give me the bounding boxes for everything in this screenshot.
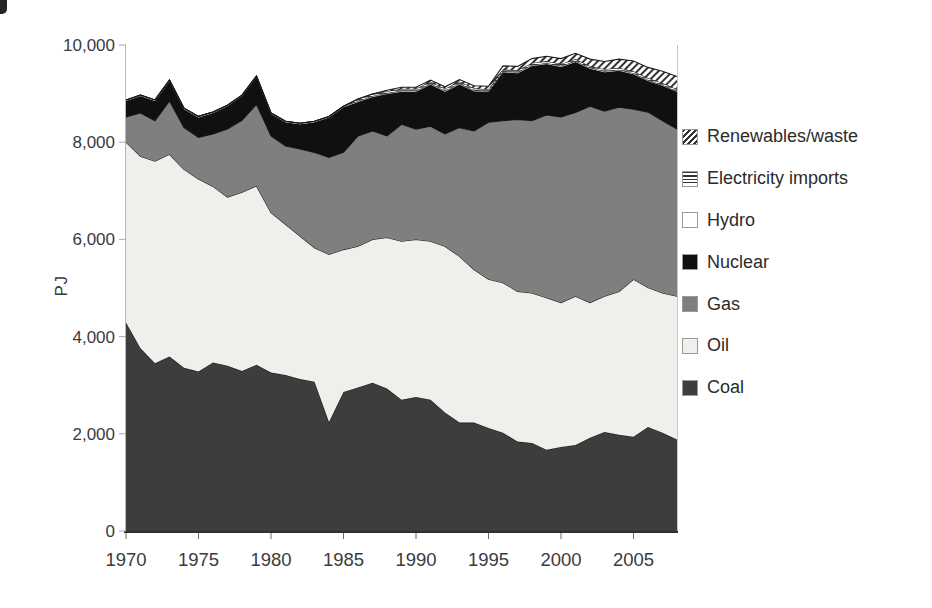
legend-item-electricity-imports: Electricity imports [682,158,858,200]
legend-label: Gas [698,294,740,315]
legend-label: Nuclear [698,252,769,273]
x-tick-label: 1980 [250,549,291,570]
legend-swatch-coal [682,380,698,396]
legend-item-renewables-waste: Renewables/waste [682,116,858,158]
scan-artifact [0,0,7,14]
legend-swatch-gas [682,296,698,312]
x-tick-label: 1995 [468,549,509,570]
y-tick-label: 0 [106,522,115,541]
legend-label: Hydro [698,210,755,231]
stacked-areas [126,53,677,531]
legend-label: Renewables/waste [698,126,858,147]
legend-label: Electricity imports [698,168,848,189]
legend-swatch-electricity-imports [682,171,698,187]
y-axis-title: PJ [52,260,72,312]
x-tick-label: 1985 [323,549,364,570]
legend-item-oil: Oil [682,325,858,367]
legend-item-hydro: Hydro [682,200,858,242]
legend-swatch-renewables-waste [682,129,698,145]
y-tick-label: 8,000 [72,133,115,152]
legend-item-gas: Gas [682,283,858,325]
legend-swatch-nuclear [682,254,698,270]
legend-label: Coal [698,377,744,398]
x-tick-label: 1990 [395,549,436,570]
x-tick-label: 2005 [613,549,654,570]
legend-swatch-hydro [682,212,698,228]
x-tick-label: 1975 [178,549,219,570]
x-tick-label: 1970 [105,549,146,570]
y-tick-label: 2,000 [72,425,115,444]
legend-swatch-oil [682,338,698,354]
legend: Renewables/wasteElectricity importsHydro… [682,116,858,409]
legend-label: Oil [698,335,729,356]
y-tick-label: 6,000 [72,230,115,249]
y-tick-label: 10,000 [63,36,115,55]
legend-item-nuclear: Nuclear [682,241,858,283]
x-tick-label: 2000 [540,549,581,570]
y-tick-label: 4,000 [72,328,115,347]
legend-item-coal: Coal [682,367,858,409]
figure: 02,0004,0006,0008,00010,0001970197519801… [0,0,932,608]
